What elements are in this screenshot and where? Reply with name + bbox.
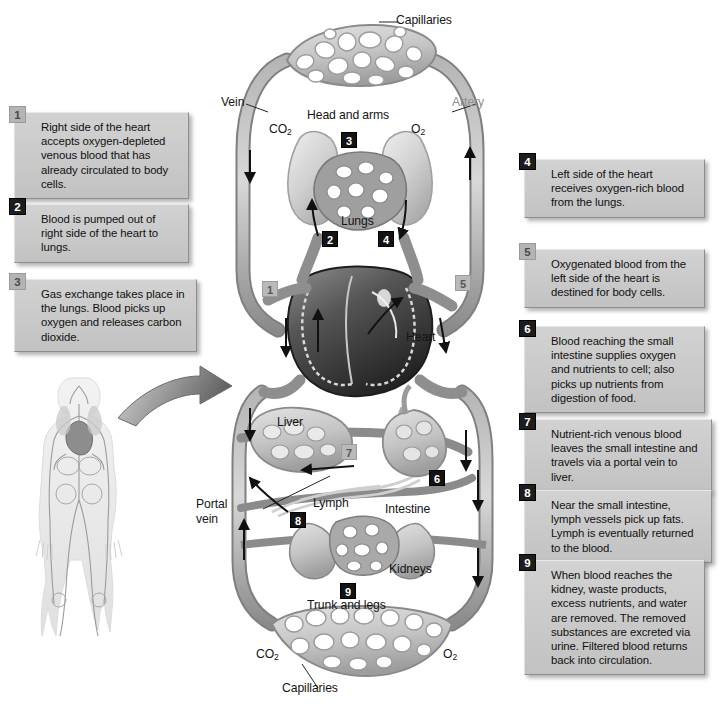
callout-4-badge: 4	[519, 153, 536, 170]
o2-bottom-text: O	[443, 647, 452, 661]
diagram-marker-6: 6	[429, 470, 445, 486]
o2-top-text: O	[411, 122, 420, 136]
callout-2-badge: 2	[9, 198, 26, 215]
callout-3-text: Gas exchange takes place in the lungs. B…	[15, 280, 196, 351]
vessel-network	[239, 60, 486, 624]
capillary-bed-bottom	[272, 606, 452, 676]
label-trunk-and-legs: Trunk and legs	[307, 598, 386, 612]
diagram-marker-7: 7	[341, 444, 357, 460]
label-portal-vein: Portal vein	[196, 497, 242, 527]
zoom-pointer-arrow	[118, 366, 232, 426]
label-head-and-arms: Head and arms	[307, 108, 389, 122]
o2-top-subscript: 2	[420, 127, 425, 137]
diagram-marker-8: 8	[290, 512, 306, 528]
label-liver: Liver	[277, 415, 303, 429]
label-lungs: Lungs	[341, 214, 374, 228]
callout-4[interactable]: 4 Left side of the heart receives oxygen…	[524, 159, 705, 218]
intestine-organ	[383, 386, 446, 476]
label-o2-bottom: O2	[443, 647, 457, 661]
callout-9-text: When blood reaches the kidney, waste pro…	[525, 561, 704, 674]
callout-6[interactable]: 6 Blood reaching the small intestine sup…	[524, 326, 705, 413]
diagram-marker-2: 2	[322, 231, 338, 247]
label-intestine: Intestine	[385, 502, 430, 516]
callout-4-text: Left side of the heart receives oxygen-r…	[525, 160, 704, 217]
callout-6-badge: 6	[519, 320, 536, 337]
co2-bottom-subscript: 2	[274, 652, 279, 662]
diagram-marker-9: 9	[340, 583, 356, 599]
co2-top-subscript: 2	[287, 127, 292, 137]
label-vein: Vein	[221, 95, 244, 109]
label-kidneys: Kidneys	[389, 562, 432, 576]
label-heart: Heart	[406, 330, 435, 344]
callout-8-badge: 8	[519, 484, 536, 501]
diagram-marker-5: 5	[455, 275, 471, 291]
callout-7[interactable]: 7 Nutrient-rich venous blood leaves the …	[524, 419, 712, 492]
callout-1[interactable]: 1 Right side of the heart accepts oxygen…	[14, 112, 189, 199]
callout-1-badge: 1	[9, 106, 26, 123]
heart-organ	[264, 238, 462, 396]
diagram-marker-1: 1	[262, 281, 278, 297]
co2-bottom-text: CO	[256, 647, 274, 661]
capillary-bed-top	[287, 25, 436, 86]
callout-2[interactable]: 2 Blood is pumped out of right side of t…	[14, 204, 189, 263]
callout-9[interactable]: 9 When blood reaches the kidney, waste p…	[524, 560, 705, 675]
callout-7-badge: 7	[519, 413, 536, 430]
callout-6-text: Blood reaching the small intestine suppl…	[525, 327, 704, 412]
label-co2-bottom: CO2	[256, 647, 279, 661]
callout-8-text: Near the small intestine, lymph vessels …	[525, 491, 711, 562]
label-capillaries-top: Capillaries	[396, 13, 452, 27]
callout-9-badge: 9	[519, 554, 536, 571]
label-artery: Artery	[452, 95, 484, 109]
callout-5[interactable]: 5 Oxygenated blood from the left side of…	[524, 249, 705, 308]
callout-2-text: Blood is pumped out of right side of the…	[15, 205, 188, 262]
o2-bottom-subscript: 2	[452, 652, 457, 662]
label-capillaries-bottom: Capillaries	[282, 681, 338, 695]
callout-5-text: Oxygenated blood from the left side of t…	[525, 250, 704, 307]
co2-top-text: CO	[269, 122, 287, 136]
callout-3[interactable]: 3 Gas exchange takes place in the lungs.…	[14, 279, 197, 352]
label-lymph: Lymph	[313, 496, 349, 510]
label-o2-top: O2	[411, 122, 425, 136]
callout-5-badge: 5	[519, 243, 536, 260]
callout-7-text: Nutrient-rich venous blood leaves the sm…	[525, 420, 711, 491]
diagram-marker-4: 4	[378, 231, 394, 247]
callout-3-badge: 3	[9, 273, 26, 290]
label-co2-top: CO2	[269, 122, 292, 136]
diagram-marker-3: 3	[341, 132, 357, 148]
callout-8[interactable]: 8 Near the small intestine, lymph vessel…	[524, 490, 712, 563]
human-body-inset	[36, 378, 122, 636]
callout-1-text: Right side of the heart accepts oxygen-d…	[15, 113, 188, 198]
